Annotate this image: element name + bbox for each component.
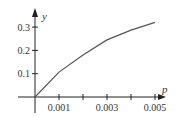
chart: 0.0010.0030.005 0.10.20.3 p y bbox=[0, 0, 182, 117]
y-tick-label: 0.3 bbox=[18, 22, 31, 33]
y-axis-arrow-icon bbox=[32, 8, 38, 17]
x-axis-label: p bbox=[161, 83, 168, 95]
y-tick-label: 0.2 bbox=[18, 45, 31, 56]
x-tick-label: 0.003 bbox=[96, 102, 119, 113]
y-axis-label: y bbox=[41, 10, 47, 22]
y-tick-label: 0.1 bbox=[18, 68, 31, 79]
x-tick-label: 0.005 bbox=[144, 102, 167, 113]
x-tick-label: 0.001 bbox=[48, 102, 71, 113]
data-line bbox=[35, 22, 155, 97]
